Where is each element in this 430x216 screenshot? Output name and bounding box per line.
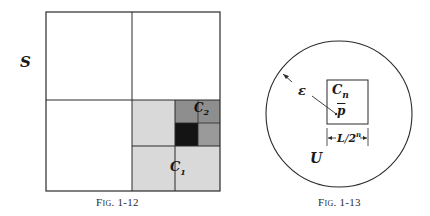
label-u: U — [310, 150, 322, 166]
label-c2: C2 — [194, 101, 209, 117]
label-epsilon: ε — [298, 83, 306, 98]
label-p: p — [337, 104, 345, 118]
label-side-length: L/2n — [337, 130, 361, 145]
caption-fig-1-12: Fig. 1-12 — [96, 196, 139, 208]
figure-canvas — [0, 0, 430, 216]
label-s: S — [20, 53, 31, 71]
label-cn: Cn — [332, 82, 349, 100]
dark-subcube — [175, 123, 198, 146]
caption-fig-1-13: Fig. 1-13 — [318, 196, 361, 208]
label-c1: C1 — [170, 159, 186, 177]
